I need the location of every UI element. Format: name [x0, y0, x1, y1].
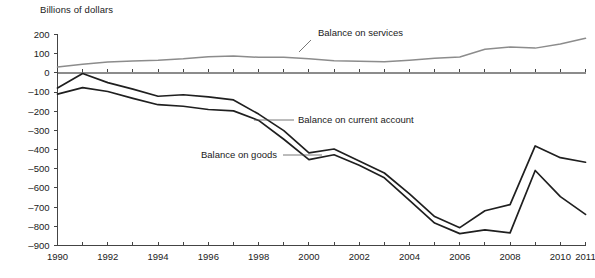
line-chart-plot: 2001000–100–200–300–400–500–600–700–800–…	[0, 0, 595, 278]
y-axis-tick-label: 0	[44, 67, 49, 78]
y-axis-tick-group: 2001000–100–200–300–400–500–600–700–800–…	[28, 29, 57, 251]
x-axis-tick-label: 2011	[575, 251, 595, 262]
x-axis-tick-label: 1998	[248, 251, 269, 262]
series-line-balance-on-services	[58, 38, 586, 67]
y-axis-tick-label: –700	[28, 202, 49, 213]
y-axis-tick-label: 200	[34, 29, 50, 40]
x-axis-tick-label: 2006	[449, 251, 470, 262]
y-axis-tick-label: –600	[28, 182, 49, 193]
x-axis-tick-label: 1996	[198, 251, 219, 262]
annotation-leader-line	[299, 40, 311, 52]
annotation-label: Balance on goods	[201, 149, 277, 160]
y-axis-tick-label: –800	[28, 221, 49, 232]
y-axis-tick-label: –300	[28, 125, 49, 136]
y-axis-tick-label: –200	[28, 106, 49, 117]
x-axis-tick-label: 2010	[550, 251, 571, 262]
y-axis-tick-label: –900	[28, 240, 49, 251]
x-axis-tick-label: 2000	[298, 251, 319, 262]
series-group	[58, 38, 586, 233]
annotation-group: Balance on servicesBalance on current ac…	[201, 27, 414, 160]
x-axis-tick-label: 1992	[97, 251, 118, 262]
x-axis-tick-label: 1994	[148, 251, 169, 262]
chart-figure: Billions of dollars 2001000–100–200–300–…	[0, 0, 595, 278]
annotation-label: Balance on current account	[298, 114, 414, 125]
x-axis-tick-label: 2004	[399, 251, 420, 262]
series-line-balance-on-current-account	[58, 73, 586, 227]
series-line-balance-on-goods	[58, 88, 586, 234]
x-axis-tick-label: 1990	[47, 251, 68, 262]
y-axis-tick-label: –100	[28, 86, 49, 97]
y-axis-tick-label: 100	[34, 48, 50, 59]
y-axis-tick-label: –400	[28, 144, 49, 155]
annotation-label: Balance on services	[318, 27, 403, 38]
y-axis-tick-label: –500	[28, 163, 49, 174]
x-axis-tick-label: 2008	[500, 251, 521, 262]
x-axis-tick-label: 2002	[349, 251, 370, 262]
